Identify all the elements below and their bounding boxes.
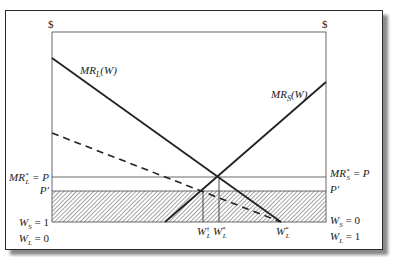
right-label-ws-0: WS = 0 bbox=[330, 214, 360, 229]
left-label-wl-0: WL = 0 bbox=[19, 232, 50, 247]
right-label-mr-s-star: MR*S = P bbox=[329, 167, 370, 182]
hatched-region bbox=[52, 191, 326, 222]
right-label-wl-1: WL = 1 bbox=[330, 230, 360, 245]
mr-l-label: MRL(W) bbox=[79, 64, 117, 79]
right-label-p-prime: P′ bbox=[329, 183, 340, 195]
labor-market-diagram: $ $ MRL(W) MRS(W) MR*L = P P′ WS = 1 WL … bbox=[0, 0, 396, 257]
bottom-label-w-star-2: W*L bbox=[276, 225, 290, 240]
left-label-ws-1: WS = 1 bbox=[19, 216, 49, 231]
bottom-label-w-dagger: W†L bbox=[197, 225, 211, 240]
bottom-label-w-star-1: W*L bbox=[213, 225, 227, 240]
left-axis-symbol: $ bbox=[48, 18, 54, 30]
right-axis-symbol: $ bbox=[322, 18, 328, 30]
mr-s-label: MRS(W) bbox=[270, 88, 308, 103]
left-label-p-prime: P′ bbox=[39, 184, 50, 196]
